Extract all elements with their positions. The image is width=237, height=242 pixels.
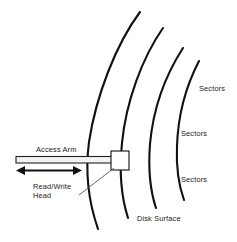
label-sectors-3: Sectors [181, 175, 207, 184]
label-disk-surface: Disk Surface [137, 214, 181, 223]
read-write-head-box [111, 151, 129, 170]
label-access-arm: Access Arm [36, 145, 77, 154]
read-write-head-leader-line [79, 168, 114, 195]
label-read-write-head-line1: Read/Write [33, 182, 71, 191]
label-read-write-head-line2: Head [33, 191, 51, 200]
disk-drive-diagram: Access Arm Read/WriteHead Sectors Sector… [0, 0, 237, 242]
disk-track-arc-1 [87, 12, 140, 229]
access-arm-shaft [16, 157, 112, 164]
diagram-canvas [0, 0, 237, 242]
label-sectors-1: Sectors [199, 84, 225, 93]
label-sectors-2: Sectors [181, 129, 207, 138]
label-read-write-head: Read/WriteHead [33, 182, 71, 200]
disk-track-arc-2 [121, 28, 163, 218]
motion-arrow-right-head [73, 166, 82, 175]
motion-arrow-left-head [16, 166, 25, 175]
